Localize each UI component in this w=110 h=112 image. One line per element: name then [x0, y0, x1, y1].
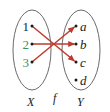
domain-element-label-1: 1	[18, 20, 29, 33]
domain-set-label: X	[27, 96, 34, 108]
function-label: f	[53, 92, 56, 104]
domain-element-label-2: 2	[18, 38, 29, 51]
domain-element-label-3: 3	[18, 56, 29, 69]
domain-dot-3	[31, 61, 34, 64]
codomain-dot-c	[75, 61, 78, 64]
codomain-element-label-b: b	[80, 38, 87, 51]
codomain-element-label-a: a	[80, 20, 87, 33]
codomain-dot-b	[75, 43, 78, 46]
codomain-element-label-d: d	[80, 74, 87, 87]
codomain-set-label: Y	[77, 96, 84, 108]
domain-dot-1	[31, 25, 34, 28]
domain-dot-2	[31, 43, 34, 46]
codomain-element-label-c: c	[80, 56, 86, 69]
mapping-diagram: 1 2 3 a b c d X Y f	[0, 0, 110, 112]
codomain-dot-d	[75, 79, 78, 82]
codomain-dot-a	[75, 25, 78, 28]
